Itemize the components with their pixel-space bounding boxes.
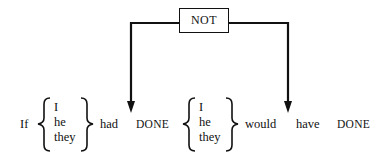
right-brace-2-icon bbox=[226, 98, 238, 151]
subject-they: they bbox=[54, 130, 76, 145]
right-arrowhead-icon bbox=[284, 101, 292, 113]
not-operator-box: NOT bbox=[179, 8, 229, 33]
right-connector bbox=[229, 23, 288, 104]
left-arrowhead-icon bbox=[127, 101, 135, 113]
word-had: had bbox=[100, 118, 118, 131]
left-brace-2-icon bbox=[183, 98, 195, 151]
right-brace-1-icon bbox=[81, 98, 93, 151]
left-brace-1-icon bbox=[38, 98, 50, 151]
word-would: would bbox=[245, 118, 276, 131]
not-label: NOT bbox=[191, 13, 217, 28]
subject-they: they bbox=[199, 130, 221, 145]
word-have: have bbox=[296, 118, 320, 131]
subject-i: I bbox=[199, 100, 221, 115]
subject-he: he bbox=[54, 115, 76, 130]
word-done-1: DONE bbox=[136, 119, 169, 131]
subject-group-2: I he they bbox=[199, 100, 221, 145]
left-connector bbox=[131, 23, 179, 104]
word-done-2: DONE bbox=[337, 119, 370, 131]
subject-group-1: I he they bbox=[54, 100, 76, 145]
subject-i: I bbox=[54, 100, 76, 115]
subject-he: he bbox=[199, 115, 221, 130]
word-if: If bbox=[20, 118, 28, 131]
